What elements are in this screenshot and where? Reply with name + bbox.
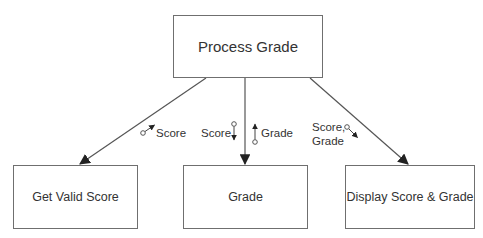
data-couple-icon <box>141 125 155 135</box>
module-get-valid-score[interactable]: Get Valid Score <box>13 165 138 229</box>
couple-label-score-right: Score, <box>312 121 345 134</box>
couple-label-grade-right: Grade <box>312 135 344 148</box>
data-couple-icon <box>345 125 358 138</box>
couple-label-grade-middle: Grade <box>261 127 293 140</box>
arrow-to-get-valid-score <box>80 78 206 164</box>
structure-chart-canvas: Process Grade Get Valid Score Grade Disp… <box>0 0 483 238</box>
couple-label-score-left: Score <box>156 127 186 140</box>
module-grade[interactable]: Grade <box>183 165 308 229</box>
data-couple-icon <box>253 124 258 144</box>
module-display-score-grade[interactable]: Display Score & Grade <box>345 165 475 229</box>
module-label: Process Grade <box>198 38 298 55</box>
module-label: Grade <box>228 190 263 204</box>
couple-label-score-middle: Score <box>201 127 231 140</box>
data-couple-icon <box>232 122 237 140</box>
module-label: Display Score & Grade <box>346 190 473 204</box>
module-label: Get Valid Score <box>32 190 119 204</box>
module-process-grade[interactable]: Process Grade <box>173 15 323 78</box>
